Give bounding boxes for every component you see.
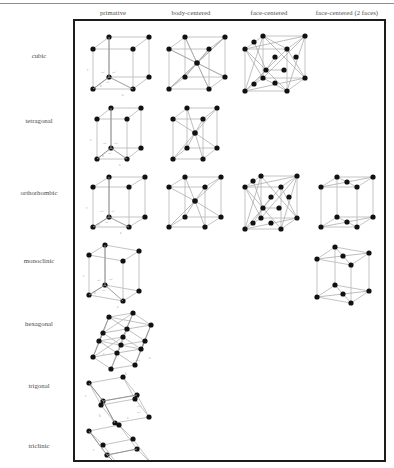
row-label-trigonal: trigonal — [8, 382, 70, 389]
lattice-orthorhombic-primitive: c b a 90° 90° 90° — [79, 169, 157, 241]
column-header-face-centered-2: face-centered (2 faces) — [306, 6, 388, 19]
angle-label-alpha: 90° — [101, 71, 105, 74]
angle-label-120: 120° — [135, 359, 140, 362]
lattice-hexagonal-primitive: c b a 120° — [79, 303, 189, 379]
lattice-orthorhombic-face-centered — [231, 167, 311, 243]
lattice-cubic-primitive: c b a 90° 90° 90° — [81, 29, 159, 101]
row-label-monoclinic: monoclinic — [8, 257, 70, 264]
angle-label-alpha: 90° — [100, 210, 104, 213]
lattice-table-frame: c b a 90° 90° 90° — [73, 19, 386, 462]
angle-label-gamma: 90° — [108, 152, 112, 155]
angle-label-gamma: 90° — [106, 81, 110, 84]
lattice-tetragonal-body-centered — [157, 101, 235, 171]
angle-label-beta: 90° — [111, 210, 115, 213]
angle-label-beta: 90° — [137, 411, 141, 414]
lattice-monoclinic-primitive: c b a 90° 90° 90° — [79, 239, 159, 311]
angle-label-beta: 90° — [114, 142, 118, 145]
axis-label-a: a — [122, 93, 124, 97]
angle-label-alpha: 90° — [103, 142, 107, 145]
column-header-primitive: primative — [74, 6, 152, 19]
axis-label-c: c — [90, 138, 92, 142]
angle-label-gamma: 90° — [102, 289, 106, 292]
angle-label-alpha: 90° — [97, 279, 101, 282]
row-label-hexagonal: hexagonal — [8, 320, 70, 327]
row-label-cubic: cubic — [8, 52, 70, 59]
axis-label-b: b — [99, 414, 101, 418]
axis-label-b: b — [98, 223, 100, 227]
axis-label-b: b — [94, 291, 96, 295]
angle-label-beta: 90° — [112, 71, 116, 74]
row-label-triclinic: triclinic — [8, 442, 70, 449]
axis-label-c: c — [86, 206, 88, 210]
axis-label-c: c — [85, 394, 87, 398]
lattice-monoclinic-face-centered-2 — [307, 239, 384, 311]
axis-label-c: c — [93, 448, 95, 452]
row-label-tetragonal: tetragonal — [8, 117, 70, 124]
lattice-triclinic-primitive: c b a — [79, 419, 179, 460]
column-header-body-centered: body-centered — [152, 6, 230, 19]
lattice-tetragonal-primitive: c b a 90° 90° 90° — [81, 101, 159, 171]
axis-label-a: a — [120, 231, 122, 235]
lattice-cubic-body-centered — [157, 29, 235, 101]
lattice-cubic-face-centered — [233, 27, 315, 103]
row-label-orthorhombic: orthorhombic — [8, 189, 70, 196]
angle-label-beta: 90° — [109, 278, 113, 281]
lattice-orthorhombic-face-centered-2 — [307, 169, 384, 241]
axis-label-b: b — [102, 154, 104, 158]
angle-label-alpha: 90° — [137, 405, 141, 408]
axis-label-a: a — [149, 356, 151, 360]
axis-label-a: a — [119, 163, 121, 167]
column-header-face-centered: face-centered — [230, 6, 308, 19]
angle-label-gamma: 90° — [105, 221, 109, 224]
lattice-orthorhombic-body-centered — [155, 169, 233, 241]
figure-page: primative body-centered face-centered fa… — [0, 0, 394, 468]
column-header-row: primative body-centered face-centered fa… — [74, 6, 386, 19]
top-rule — [0, 3, 394, 4]
axis-label-b: b — [100, 84, 102, 88]
axis-label-c: c — [87, 68, 89, 72]
axis-label-c: c — [83, 274, 85, 278]
